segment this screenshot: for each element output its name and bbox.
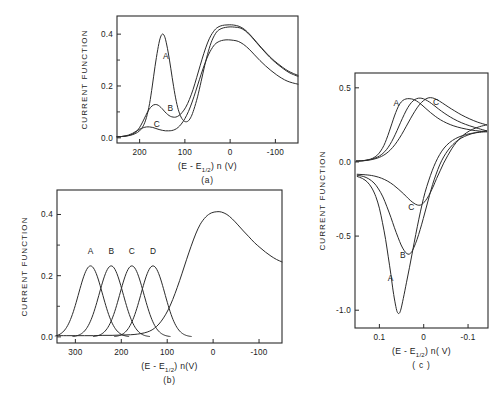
x-tick-label: -0.1 <box>461 333 476 342</box>
x-axis-label: (E - E1/2) n(V) <box>141 361 197 373</box>
y-tick-label: -0.5 <box>336 232 351 241</box>
x-tick-label: -100 <box>267 148 284 157</box>
y-tick-label: 0.0 <box>101 134 113 143</box>
curve-label-C: C <box>154 119 160 129</box>
y-tick-label: 0.2 <box>41 272 53 281</box>
electrochemistry-figure: 2001000-1000.00.20.4ABCCURRENT FUNCTION(… <box>0 0 500 402</box>
y-tick-label: 0.5 <box>339 84 351 93</box>
curve-B <box>117 25 298 137</box>
y-axis-label: CURRENT FUNCTION <box>80 29 89 129</box>
y-axis-label: CURRENT FUNCTION <box>318 150 327 250</box>
curve-label-A: A <box>163 51 169 61</box>
y-tick-label: 0.2 <box>101 82 113 91</box>
x-tick-label: 100 <box>178 148 193 157</box>
curve-A-forward <box>356 99 486 161</box>
curve-main-wave <box>57 212 282 336</box>
x-tick-label: 0 <box>228 148 233 157</box>
curve-label-A: A <box>388 273 394 283</box>
panel-caption: ( c ) <box>412 360 430 370</box>
y-tick-label: 0.0 <box>339 158 351 167</box>
curve-C <box>94 266 170 337</box>
y-tick-label: 0.0 <box>41 333 53 342</box>
x-axis-label: (E - E1/2) n (V) <box>178 161 237 173</box>
x-axis-label: (E - E1/2) n( V) <box>392 346 451 358</box>
x-tick-label: 0 <box>421 333 426 342</box>
curve-label-C: C <box>408 202 414 212</box>
figure-canvas: 2001000-1000.00.20.4ABCCURRENT FUNCTION(… <box>0 0 500 402</box>
curve-B-reverse <box>357 131 486 254</box>
y-tick-label: 0.4 <box>101 30 113 39</box>
panel-caption: (b) <box>163 375 176 385</box>
curve-label-C: C <box>129 246 135 256</box>
y-tick-label: -1.0 <box>336 306 351 315</box>
curve-label-D: D <box>150 246 156 256</box>
x-tick-label: 300 <box>68 348 83 357</box>
curve-label-B: B <box>108 246 114 256</box>
curve-B <box>73 266 149 337</box>
curve-label-A: A <box>393 98 399 108</box>
x-tick-label: 0.1 <box>373 333 385 342</box>
curve-C-reverse <box>357 125 486 205</box>
chart-panel_a: 2001000-1000.00.20.4ABCCURRENT FUNCTION(… <box>80 16 298 185</box>
x-tick-label: 200 <box>132 148 147 157</box>
x-tick-label: 200 <box>114 348 129 357</box>
x-tick-label: 100 <box>160 348 175 357</box>
chart-panel_c: 0.10-0.10.50.0-0.5-1.0ACABCCURRENT FUNCT… <box>318 73 488 370</box>
x-tick-label: 0 <box>211 348 216 357</box>
panel-caption: (a) <box>201 175 214 185</box>
curve-label-A: A <box>88 246 94 256</box>
curve-label-B: B <box>400 250 406 260</box>
curve-D <box>115 266 191 337</box>
plot-frame <box>355 73 488 328</box>
y-tick-label: 0.4 <box>41 210 53 219</box>
curve-label-C: C <box>433 97 439 107</box>
curve-label-B: B <box>168 103 174 113</box>
x-tick-label: -100 <box>250 348 267 357</box>
chart-panel_b: 3002001000-1000.00.20.4ABCDCURRENT FUNCT… <box>20 190 282 385</box>
y-axis-label: CURRENT FUNCTION <box>20 216 29 316</box>
